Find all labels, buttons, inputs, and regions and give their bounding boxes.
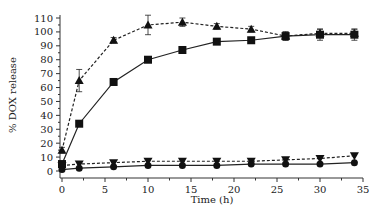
- triangle-up-marker: [212, 22, 221, 30]
- square-marker: [75, 120, 83, 128]
- square-marker: [247, 36, 255, 44]
- circle-marker: [317, 161, 324, 168]
- circle-marker: [76, 165, 83, 172]
- square-marker: [110, 78, 118, 86]
- y-axis-title: % DOX release: [7, 57, 18, 133]
- y-tick-label: 90: [40, 40, 53, 51]
- y-tick-label: 110: [34, 13, 53, 24]
- x-tick-label: 10: [142, 184, 155, 195]
- circle-marker: [59, 166, 66, 173]
- square-marker: [213, 38, 221, 46]
- circle-marker: [351, 159, 358, 166]
- y-tick-label: 60: [40, 82, 53, 93]
- triangle-up-marker: [109, 36, 118, 44]
- y-tick-label: 50: [40, 96, 53, 107]
- y-tick-label: 20: [40, 138, 53, 149]
- triangle-down-marker: [350, 152, 359, 160]
- circle-marker: [282, 161, 289, 168]
- circle-marker: [110, 163, 117, 170]
- circle-marker: [213, 162, 220, 169]
- circle-marker: [248, 161, 255, 168]
- square-marker: [144, 56, 152, 64]
- series-triangle-up: [58, 15, 359, 153]
- x-tick-label: 0: [59, 184, 65, 195]
- circle-marker: [179, 162, 186, 169]
- series-line: [62, 163, 354, 170]
- y-tick-label: 30: [40, 124, 53, 135]
- series-line: [62, 35, 354, 164]
- x-tick-label: 30: [314, 184, 327, 195]
- release-chart: 010203040506070809010011005101520253035 …: [0, 0, 389, 217]
- y-tick-label: 40: [40, 110, 53, 121]
- circle-marker: [145, 162, 152, 169]
- plot-area: [58, 15, 359, 173]
- series-line: [62, 22, 354, 150]
- x-axis-title: Time (h): [191, 194, 234, 205]
- series-square: [58, 29, 358, 168]
- square-marker: [178, 46, 186, 54]
- y-tick-label: 80: [40, 54, 53, 65]
- square-marker: [316, 31, 324, 39]
- x-tick-label: 35: [357, 184, 370, 195]
- y-tick-label: 70: [40, 68, 53, 79]
- y-tick-label: 100: [34, 26, 53, 37]
- x-tick-label: 5: [102, 184, 108, 195]
- square-marker: [350, 31, 358, 39]
- x-tick-label: 25: [271, 184, 284, 195]
- y-tick-label: 10: [40, 152, 53, 163]
- square-marker: [282, 32, 290, 40]
- triangle-up-marker: [178, 18, 187, 26]
- y-tick-label: 0: [47, 166, 53, 177]
